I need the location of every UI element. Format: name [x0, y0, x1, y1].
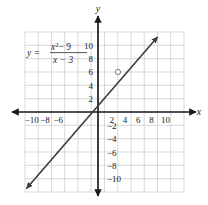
y-tick-label: −10: [107, 174, 122, 184]
y-tick-label: −4: [107, 134, 117, 144]
equation-numerator-rest: − 9: [58, 42, 71, 52]
x-tick-label: −8: [40, 115, 50, 125]
x-tick-label: 10: [161, 115, 171, 125]
graph-figure: x y −10 −8 −6 2 4 6 8 10 10 8 6 4 2 −2 −…: [0, 0, 208, 205]
y-tick-label: −2: [107, 121, 117, 131]
x-axis-label: x: [196, 106, 202, 117]
x-tick-label: −10: [25, 115, 40, 125]
y-tick-label: 2: [89, 94, 94, 104]
y-axis-label: y: [95, 3, 101, 14]
x-tick-label: 8: [149, 115, 154, 125]
equation-lhs: y =: [26, 48, 40, 58]
equation-numerator: x2− 9: [50, 41, 71, 52]
y-tick-label: 10: [84, 41, 94, 51]
discontinuity-hole-marker: [115, 69, 120, 74]
coordinate-plane: x y −10 −8 −6 2 4 6 8 10 10 8 6 4 2 −2 −…: [0, 0, 208, 205]
x-tick-label: −6: [54, 115, 64, 125]
x-tick-label: 6: [136, 115, 141, 125]
y-tick-label: 4: [89, 81, 94, 91]
y-tick-label: −8: [107, 161, 117, 171]
equation-denominator: x − 3: [52, 55, 73, 65]
y-tick-label: 8: [89, 54, 94, 64]
y-tick-label: −6: [107, 148, 117, 158]
x-tick-label: 4: [123, 115, 128, 125]
y-tick-label: 6: [89, 67, 94, 77]
